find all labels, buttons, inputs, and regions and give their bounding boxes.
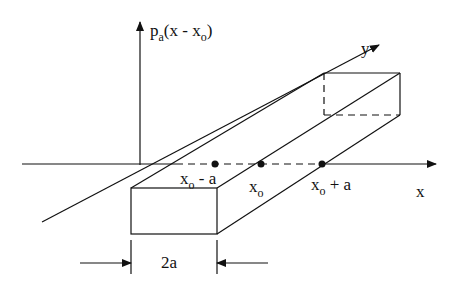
y-axis-label: y: [361, 39, 370, 58]
label-x0-plus-a: xo + a: [311, 175, 352, 198]
box-edge-top-left: [131, 73, 324, 188]
box-front-face: [131, 188, 217, 234]
point-x0-plus-a: [319, 161, 326, 168]
x-axis-label: x: [416, 182, 425, 201]
label-x0: xo: [249, 177, 264, 200]
point-x0: [258, 161, 265, 168]
box-edge-top-right: [217, 73, 400, 188]
box-edge-bottom-right: [217, 115, 400, 234]
point-x0-minus-a: [212, 161, 219, 168]
width-label: 2a: [161, 253, 178, 272]
y-axis: [42, 45, 379, 222]
vertical-axis-label: pa(x - xo): [150, 21, 212, 44]
rect-pulse-diagram: pa(x - xo) y x xo - a xo xo + a 2a: [0, 0, 456, 286]
